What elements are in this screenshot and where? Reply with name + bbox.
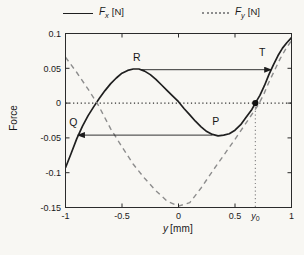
y-tick-label: -0.15: [40, 203, 61, 213]
x-tick-label: -0.5: [114, 211, 130, 221]
chart-canvas: -1-0.500.510.10.050-0.05-0.1-0.15y0RTQP: [0, 0, 304, 255]
y-tick-label: 0.05: [43, 64, 61, 74]
fy-curve: [66, 41, 292, 207]
x-axis-title-symbol: y: [163, 223, 168, 234]
x-tick-label: 0.5: [229, 211, 242, 221]
annotation-label-T: T: [259, 46, 266, 58]
x-tick-label: 1: [289, 211, 294, 221]
zero-crossing-dot: [252, 100, 258, 106]
y-tick-label: 0.1: [48, 29, 61, 39]
plot-border: [66, 34, 292, 208]
annotation-label-R: R: [133, 51, 141, 63]
figure: Fx[N] Fy[N] -1-0.500.510.10.050-0.05-0.1…: [0, 0, 304, 255]
annotation-label-P: P: [212, 115, 219, 127]
x-axis-title: y[mm]: [52, 223, 304, 234]
x-tick-label: 0: [176, 211, 181, 221]
y-tick-label: -0.1: [45, 168, 61, 178]
y-tick-label: -0.05: [40, 133, 61, 143]
y-axis-title: Force: [8, 105, 19, 131]
annotation-label-Q: Q: [69, 116, 77, 128]
y-tick-label: 0: [56, 98, 61, 108]
x-tick-label-y0: y0: [250, 211, 260, 222]
x-axis-title-unit: [mm]: [170, 223, 193, 234]
x-tick-label: -1: [61, 211, 69, 221]
